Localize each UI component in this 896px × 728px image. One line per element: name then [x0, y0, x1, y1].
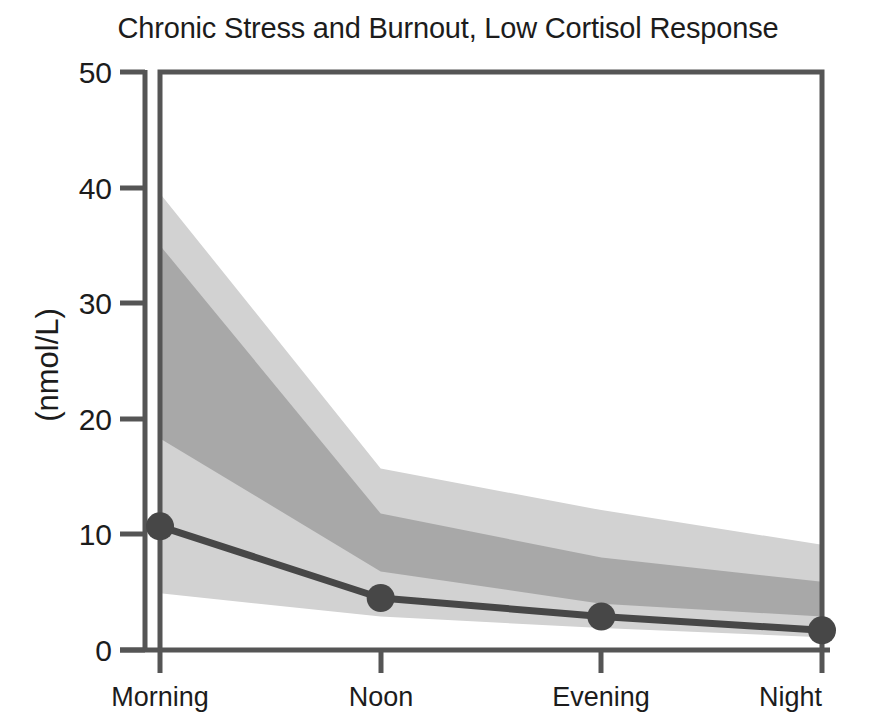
y-axis-title: (nmol/L) — [30, 308, 65, 422]
data-point-marker — [146, 512, 174, 540]
x-tick-label-noon: Noon — [349, 682, 414, 712]
x-tick-label-evening: Evening — [552, 682, 650, 712]
data-point-marker — [367, 584, 395, 612]
x-tick-label-morning: Morning — [111, 682, 209, 712]
chart-figure: Chronic Stress and Burnout, Low Cortisol… — [0, 0, 896, 728]
x-axis-ticks — [160, 650, 822, 673]
y-tick-label-10: 10 — [79, 518, 112, 551]
y-tick-label-50: 50 — [79, 56, 112, 89]
y-tick-label-20: 20 — [79, 403, 112, 436]
y-tick-label-0: 0 — [95, 634, 112, 667]
chart-plot-area: 50 40 30 20 10 0 (nmol/L) Morning Noon E… — [0, 0, 896, 728]
data-point-marker — [587, 602, 615, 630]
data-point-marker — [808, 616, 836, 644]
y-axis-ticks — [120, 72, 145, 650]
y-tick-label-30: 30 — [79, 287, 112, 320]
x-tick-label-night: Night — [759, 682, 823, 712]
y-tick-label-40: 40 — [79, 172, 112, 205]
